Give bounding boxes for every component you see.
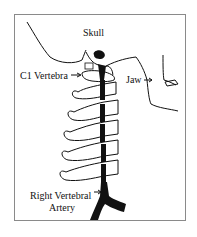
c1-lateral-mass: [85, 63, 93, 69]
artery-label-line1: Right Vertebral: [30, 190, 91, 201]
spine-diagram: Skull C1 Vertebra Jaw Right Vertebral Ar…: [0, 0, 197, 237]
skull-outline: [27, 22, 86, 63]
vertebra-c4: [64, 120, 118, 141]
skull-label: Skull: [83, 27, 104, 38]
artery-arrow: [94, 190, 101, 194]
c1-vertebra-label: C1 Vertebra: [20, 70, 68, 81]
jaw-label: Jaw: [126, 74, 142, 85]
jaw-arrow: [144, 78, 152, 82]
c2-dens: [94, 50, 105, 59]
vertebra-c5: [62, 140, 118, 161]
artery-label-line2: Artery: [49, 202, 75, 213]
vertebra-c6: [60, 160, 118, 181]
c1-arrow: [71, 73, 81, 77]
vertebra-c3: [68, 100, 118, 121]
vertebra-c2: [72, 82, 116, 99]
cervical-vertebrae: [60, 82, 118, 181]
c1-vertebra: [82, 71, 115, 82]
